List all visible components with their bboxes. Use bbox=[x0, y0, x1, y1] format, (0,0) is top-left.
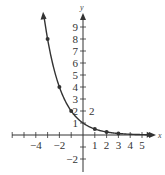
data-point bbox=[57, 85, 61, 89]
tick-labels: −4−212345123456789−22 bbox=[30, 21, 145, 165]
data-point bbox=[69, 109, 73, 113]
data-points bbox=[41, 12, 153, 138]
y-axis-arrow-icon bbox=[80, 13, 86, 20]
x-tick-label: 3 bbox=[116, 139, 122, 151]
curve-arrow-icon bbox=[41, 12, 47, 20]
x-tick-label: 1 bbox=[92, 139, 98, 151]
curve bbox=[44, 17, 149, 135]
data-point bbox=[105, 130, 109, 134]
y-tick-label: 9 bbox=[73, 21, 79, 33]
x-tick-label: −2 bbox=[54, 139, 66, 151]
y-tick-label: 6 bbox=[73, 57, 79, 69]
x-tick-label: 2 bbox=[104, 139, 110, 151]
y-axis-label: y bbox=[79, 3, 84, 12]
x-axis-label: x bbox=[157, 131, 162, 140]
y-tick-label: 4 bbox=[73, 81, 79, 93]
x-tick-label: −4 bbox=[30, 139, 42, 151]
exponential-chart: xy −4−212345123456789−22 bbox=[0, 0, 165, 175]
y-tick-label: 8 bbox=[73, 33, 79, 45]
x-tick-label: 4 bbox=[127, 139, 133, 151]
data-point bbox=[46, 37, 50, 41]
x-tick-label: 5 bbox=[139, 139, 145, 151]
annotation-label: 2 bbox=[89, 105, 95, 117]
y-tick-label: −2 bbox=[66, 153, 78, 165]
y-tick-label: 5 bbox=[73, 69, 79, 81]
y-tick-label: 3 bbox=[73, 93, 79, 105]
data-point bbox=[93, 127, 97, 131]
y-tick-label: 7 bbox=[73, 45, 79, 57]
data-point bbox=[116, 132, 120, 136]
